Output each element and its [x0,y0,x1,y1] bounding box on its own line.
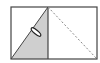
dashed-diagonal [48,7,97,59]
diagram [0,0,100,63]
